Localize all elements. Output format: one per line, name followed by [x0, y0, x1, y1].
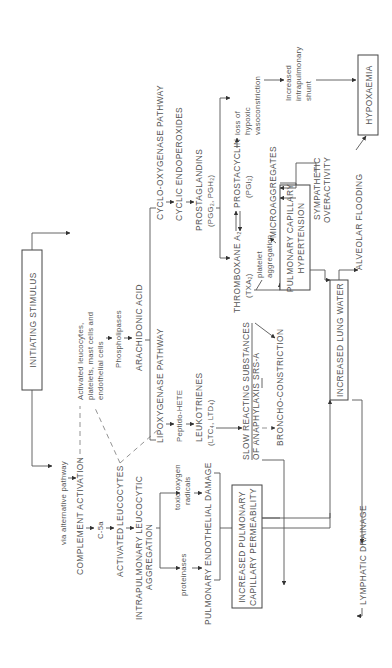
loss-hypoxic-line1: loss of — [233, 110, 242, 135]
intrapulmonary-aggregation-line1: INTRAPULMONARY LEUCOCYTIC — [134, 476, 144, 620]
connector-srs-to-permeability — [262, 460, 284, 585]
cyclooxygenase-pathway-label: CYCLO-OXYGENASE PATHWAY — [155, 85, 165, 220]
dashed-leucocytes-to-lipoxygenase — [120, 428, 160, 463]
platelet-aggregation-line1: platelet — [255, 251, 264, 278]
peptido-hete-label: Peptido-HETE — [175, 390, 184, 442]
connector-stimulus-to-activated-cells — [32, 233, 70, 250]
shunt-line2: intrapulmonary — [294, 47, 303, 101]
c5a-label: C-5a — [96, 521, 105, 539]
thromboxane-line2: (TXA₂) — [244, 273, 253, 298]
connector-hypertension-to-lung-water — [310, 270, 330, 280]
intrapulmonary-aggregation-line2: AGGREGATION — [144, 524, 154, 590]
srs-line2: OF ANAPHYLAXIS SRS-A — [251, 352, 261, 460]
permeability-line1: INCREASED PULMONARY — [237, 491, 247, 603]
microaggregates-label: MICROAGGREGATES — [268, 146, 278, 238]
toxic-oxygen-line2: radicals — [183, 477, 192, 505]
connector-permeability-to-lung-water — [262, 513, 330, 518]
shunt-line3: shunt — [304, 80, 313, 101]
sympathetic-line2: OVERACTIVITY — [322, 157, 332, 223]
hypertension-node: PULMONARY CAPILLARY HYPERTENSION — [280, 184, 310, 293]
hypoxaemia-node: HYPOXAEMIA — [358, 55, 378, 135]
connector-flooding-to-hypoxaemia — [356, 136, 366, 150]
alveolar-flooding-label: ALVEOLAR FLOODING — [354, 174, 364, 270]
proteinases-label: proteinases — [179, 553, 188, 596]
activated-cells-line2: platelets, mast cells and — [86, 312, 95, 400]
initiating-stimulus-node: INITIATING STIMULUS — [22, 250, 42, 390]
leukotrienes-line1: LEUKOTRIENES — [194, 372, 204, 442]
prostacyclin-line2: (PGI₂) — [244, 175, 253, 198]
loss-hypoxic-line3: vasoconstriction — [253, 76, 262, 135]
platelet-aggregation-line2: aggregation — [265, 235, 274, 278]
pathophysiology-flowchart: INITIATING STIMULUS via alternative path… — [0, 0, 392, 668]
flowchart-stage: INITIATING STIMULUS via alternative path… — [0, 0, 392, 668]
activated-cells-line3: endothelial cells — [96, 341, 105, 400]
lung-water-label: INCREASED LUNG WATER — [335, 283, 345, 397]
lung-water-node: INCREASED LUNG WATER — [330, 280, 348, 400]
leukotrienes-line2: (LTC₄, LTD₄) — [206, 399, 215, 446]
hypoxaemia-label: HYPOXAEMIA — [364, 65, 374, 124]
dashed-leucocytes-to-cells — [95, 408, 120, 463]
activated-label: ACTIVATED — [115, 528, 125, 577]
leucocytes-label: LEUCOCYTES — [115, 465, 125, 526]
connector-stimulus-to-complement — [32, 390, 52, 466]
activated-cells-line1: Activated leucocytes, — [76, 323, 85, 400]
phospholipases-label: Phospholipases — [114, 310, 123, 368]
lymphatic-drainage-label: LYMPHATIC DRAINAGE — [358, 505, 368, 605]
lipoxygenase-pathway-label: LIPOXYGENASE PATHWAY — [155, 328, 165, 443]
initiating-stimulus-label: INITIATING STIMULUS — [28, 272, 38, 367]
thromboxane-line1: THROMBOXANE A₂ — [232, 231, 242, 313]
loss-hypoxic-line2: hypoxic — [243, 107, 252, 135]
connector-prostaglandins-split — [216, 98, 220, 258]
shunt-line1: Increased — [284, 65, 293, 101]
permeability-line2: CAPILLARY PERMEABILITY — [248, 488, 258, 606]
cyclic-endoperoxides-label: CYCLIC ENDOPEROXIDES — [174, 107, 184, 221]
hypertension-line2: HYPERTENSION — [296, 203, 306, 274]
via-alternative-pathway-label: via alternative pathway — [59, 461, 68, 545]
srs-line1: SLOW REACTING SUBSTANCES — [241, 322, 251, 460]
complement-activation-label: COMPLEMENT ACTIVATION — [75, 457, 85, 575]
hypertension-line1: PULMONARY CAPILLARY — [285, 184, 295, 293]
bronchoconstriction-label: BRONCHO-CONSTRICTION — [275, 329, 285, 446]
prostaglandins-line1: PROSTAGLANDINS — [194, 149, 204, 231]
toxic-oxygen-line1: toxic oxygen — [173, 464, 182, 510]
sympathetic-line1: SYMPATHETIC — [312, 157, 322, 220]
endothelial-damage-label: PULMONARY ENDOTHELIAL DAMAGE — [203, 462, 213, 625]
permeability-node: INCREASED PULMONARY CAPILLARY PERMEABILI… — [232, 485, 262, 608]
prostacyclin-line1: PROSTACYCLIN — [232, 139, 242, 208]
arachidonic-acid-label: ARACHIDONIC ACID — [134, 284, 144, 371]
prostaglandins-line2: (PGG₂, PGH₂) — [206, 175, 215, 227]
